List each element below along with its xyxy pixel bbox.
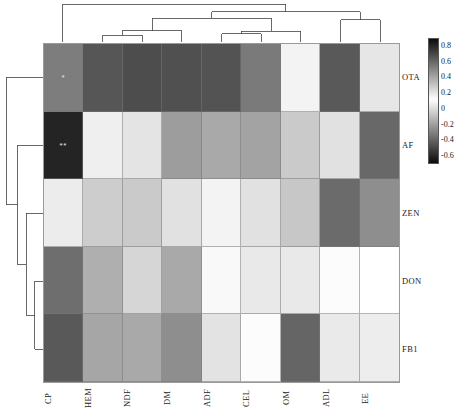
colorbar-tick: 0 [441,105,445,113]
row-dendrogram [3,43,43,383]
heatmap-cell [83,179,122,247]
heatmap-cell [360,112,399,180]
heatmap-cell: ** [44,112,83,180]
footer-note [182,404,412,415]
heatmap-cell [44,179,83,247]
heatmap-cell [123,112,162,180]
heatmap-cell [360,314,399,382]
heatmap-cell [202,314,241,382]
row-label-fb1: FB1 [402,315,436,383]
heatmap-cell [123,44,162,112]
heatmap-cell [281,314,320,382]
heatmap-cell [83,112,122,180]
heatmap-cell [241,179,280,247]
heatmap-cell [123,179,162,247]
heatmap-cell [241,44,280,112]
row-label-don: DON [402,247,436,315]
significance-marker: ** [60,142,67,150]
heatmap-cell [202,44,241,112]
heatmap-cell [320,44,359,112]
colorbar-tick: 0.8 [441,42,451,50]
colorbar-tick-labels: 0.80.60.40.20-0.2-0.4-0.6 [441,38,463,164]
heatmap-cell [281,112,320,180]
colorbar-tick: -0.6 [441,152,454,160]
column-label-hem: HEM [83,383,123,413]
heatmap-cell [281,179,320,247]
colorbar-tick: -0.4 [441,136,454,144]
row-label-zen: ZEN [402,179,436,247]
heatmap-cell [162,314,201,382]
heatmap-cell [320,179,359,247]
heatmap-cell [281,247,320,315]
heatmap-cell: * [44,44,83,112]
heatmap-figure: *** CPHEMNDFDMADFCELOMADLEE OTAAFZENDONF… [0,0,463,415]
heatmap-cell [281,44,320,112]
heatmap-cell [162,179,201,247]
significance-marker: * [61,74,65,82]
heatmap-cell [241,314,280,382]
heatmap-cell [44,314,83,382]
heatmap-cell [202,247,241,315]
heatmap-cell [241,112,280,180]
heatmap-cell [202,179,241,247]
heatmap-cell [320,314,359,382]
heatmap-cell [44,247,83,315]
heatmap-cell [360,44,399,112]
heatmap-cell [360,179,399,247]
column-label-cp: CP [43,383,83,413]
colorbar: 0.80.60.40.20-0.2-0.4-0.6 [428,38,463,164]
colorbar-tick: 0.4 [441,73,451,81]
heatmap-cell [241,247,280,315]
heatmap-cell [83,247,122,315]
heatmap-cell [83,314,122,382]
column-label-ndf: NDF [122,383,162,413]
heatmap-cell [320,112,359,180]
heatmap-cell [320,247,359,315]
heatmap-cell [123,314,162,382]
heatmap-cell [360,247,399,315]
colorbar-gradient [428,38,439,164]
heatmap-cell [162,44,201,112]
heatmap-cell [162,247,201,315]
heatmap-cell [83,44,122,112]
column-dendrogram [43,2,400,42]
colorbar-tick: 0.6 [441,58,451,66]
colorbar-tick: 0.2 [441,89,451,97]
heatmap-cell [123,247,162,315]
heatmap-grid: *** [43,43,400,383]
heatmap-cell [162,112,201,180]
colorbar-tick: -0.2 [441,121,454,129]
heatmap-cell [202,112,241,180]
